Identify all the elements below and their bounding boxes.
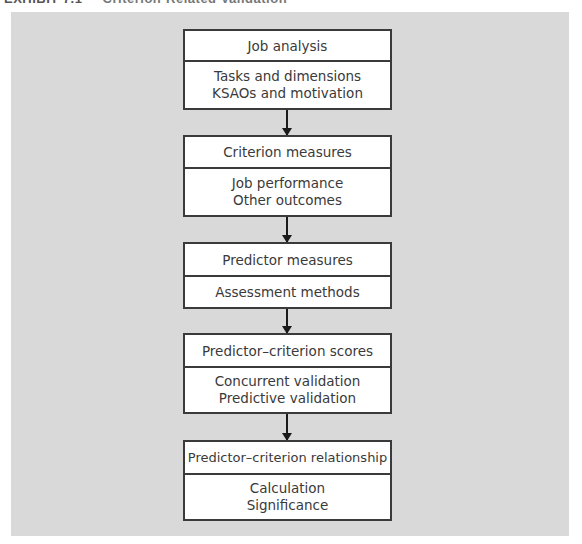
step-job-analysis: Job analysis Tasks and dimensions KSAOs … — [183, 29, 392, 110]
step-details: Tasks and dimensions KSAOs and motivatio… — [185, 62, 390, 108]
step-detail-line: Assessment methods — [215, 284, 359, 301]
step-title: Predictor–criterion relationship — [185, 442, 390, 475]
step-details: Concurrent validation Predictive validat… — [185, 368, 390, 412]
step-details: Calculation Significance — [185, 475, 390, 519]
step-detail-line: Predictive validation — [219, 390, 356, 407]
step-title: Job analysis — [185, 31, 390, 62]
step-detail-line: KSAOs and motivation — [212, 85, 363, 102]
down-arrow-icon — [286, 414, 288, 440]
step-details: Assessment methods — [185, 277, 390, 307]
exhibit-title: Criterion-Related Validation — [103, 0, 287, 6]
step-predictor-criterion-relationship: Predictor–criterion relationship Calcula… — [183, 440, 392, 521]
step-title: Criterion measures — [185, 137, 390, 169]
step-title: Predictor measures — [185, 244, 390, 277]
diagram-panel: Job analysis Tasks and dimensions KSAOs … — [11, 12, 569, 536]
exhibit-label: EXHIBIT 7.1 — [4, 0, 82, 6]
step-predictor-measures: Predictor measures Assessment methods — [183, 242, 392, 309]
down-arrow-icon — [286, 110, 288, 135]
down-arrow-icon — [286, 217, 288, 242]
step-details: Job performance Other outcomes — [185, 169, 390, 215]
step-detail-line: Tasks and dimensions — [214, 68, 361, 85]
step-detail-line: Job performance — [232, 175, 344, 192]
step-detail-line: Calculation — [250, 480, 325, 497]
down-arrow-icon — [286, 309, 288, 333]
step-criterion-measures: Criterion measures Job performance Other… — [183, 135, 392, 217]
exhibit-caption: EXHIBIT 7.1 Criterion-Related Validation — [4, 0, 287, 5]
step-detail-line: Significance — [247, 497, 329, 514]
step-predictor-criterion-scores: Predictor–criterion scores Concurrent va… — [183, 333, 392, 414]
step-detail-line: Concurrent validation — [215, 373, 361, 390]
step-title: Predictor–criterion scores — [185, 335, 390, 368]
step-detail-line: Other outcomes — [233, 192, 342, 209]
